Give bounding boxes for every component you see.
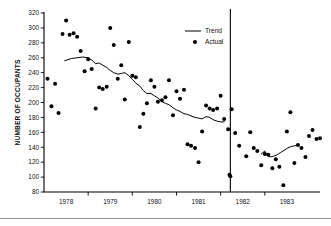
footer-divider: [0, 218, 331, 219]
y-axis-tick-label: 240: [28, 69, 39, 76]
data-point: [138, 125, 142, 129]
y-axis-tick-label: 140: [28, 144, 39, 151]
y-axis-tick-label: 80: [32, 188, 40, 195]
data-point: [228, 174, 232, 178]
data-point: [72, 31, 76, 35]
y-axis-tick-label: 280: [28, 39, 39, 46]
data-point: [303, 155, 307, 159]
chart-figure: 8010012014016018020022024026028030032019…: [0, 0, 331, 226]
occupants-scatter-chart: 8010012014016018020022024026028030032019…: [0, 0, 331, 226]
data-point: [90, 67, 94, 71]
data-point: [152, 85, 156, 89]
data-point: [105, 85, 109, 89]
data-point: [299, 146, 303, 150]
data-point: [226, 127, 230, 131]
data-point: [171, 113, 175, 117]
data-point: [186, 142, 190, 146]
data-point: [123, 98, 127, 102]
data-point: [178, 97, 182, 101]
data-point: [101, 87, 105, 91]
data-point: [94, 106, 98, 110]
data-point: [167, 78, 171, 82]
data-point: [208, 106, 212, 110]
data-point: [307, 134, 311, 138]
data-point: [83, 69, 87, 73]
data-point: [200, 130, 204, 134]
legend-actual-swatch: [193, 40, 197, 44]
data-point: [285, 130, 289, 134]
data-point: [296, 143, 300, 147]
y-axis-title: NUMBER OF OCCUPANTS: [14, 59, 21, 145]
data-point: [116, 77, 120, 81]
y-axis-tick-label: 120: [28, 158, 39, 165]
chart-canvas: 8010012014016018020022024026028030032019…: [0, 0, 331, 226]
x-axis-tick-label: 1982: [236, 198, 251, 205]
data-point: [281, 183, 285, 187]
data-point: [277, 165, 281, 169]
data-point: [204, 103, 208, 107]
data-point: [108, 26, 112, 30]
x-axis-tick-label: 1978: [59, 198, 74, 205]
data-point: [237, 144, 241, 148]
data-point: [86, 57, 90, 61]
data-point: [263, 152, 267, 156]
data-point: [252, 146, 256, 150]
x-axis-tick-label: 1979: [103, 198, 118, 205]
data-point: [197, 160, 201, 164]
data-point: [233, 131, 237, 135]
data-point: [215, 106, 219, 110]
y-axis-tick-label: 260: [28, 54, 39, 61]
data-point: [266, 153, 270, 157]
data-point: [288, 110, 292, 114]
y-axis-tick-label: 300: [28, 24, 39, 31]
x-axis-tick-label: 1983: [280, 198, 295, 205]
data-point: [75, 35, 79, 39]
data-point: [64, 18, 68, 22]
data-point: [248, 130, 252, 134]
data-point: [130, 74, 134, 78]
y-axis-tick-label: 200: [28, 99, 39, 106]
data-point: [97, 86, 101, 90]
y-axis-tick-label: 320: [28, 9, 39, 16]
data-point: [211, 108, 215, 112]
data-point: [222, 117, 226, 121]
data-point: [46, 77, 50, 81]
data-point: [174, 89, 178, 93]
data-point: [270, 166, 274, 170]
data-point: [259, 163, 263, 167]
data-point: [314, 137, 318, 141]
data-point: [274, 157, 278, 161]
data-point: [61, 32, 65, 36]
data-point: [112, 43, 116, 47]
data-point: [127, 40, 131, 44]
data-point: [68, 33, 72, 37]
data-point: [149, 78, 153, 82]
data-point: [292, 161, 296, 165]
data-point: [141, 112, 145, 116]
data-point: [182, 88, 186, 92]
data-point: [134, 75, 138, 79]
data-point: [255, 149, 259, 153]
legend-trend-label: Trend: [205, 27, 222, 34]
y-axis-tick-label: 160: [28, 129, 39, 136]
legend-actual-label: Actual: [205, 38, 224, 45]
data-point: [156, 100, 160, 104]
data-point: [193, 146, 197, 150]
data-point: [318, 136, 322, 140]
y-axis-tick-label: 220: [28, 84, 39, 91]
data-point: [189, 144, 193, 148]
data-point: [163, 95, 167, 99]
data-point: [310, 128, 314, 132]
data-point: [57, 111, 61, 115]
data-point: [160, 98, 164, 102]
x-axis-tick-label: 1980: [147, 198, 162, 205]
data-point: [230, 107, 234, 111]
data-point: [244, 154, 248, 158]
data-point: [53, 82, 57, 86]
data-point: [119, 63, 123, 67]
y-axis-tick-label: 100: [28, 173, 39, 180]
x-axis-tick-label: 1981: [191, 198, 206, 205]
data-point: [50, 104, 54, 108]
y-axis-tick-label: 180: [28, 114, 39, 121]
data-point: [79, 49, 83, 53]
